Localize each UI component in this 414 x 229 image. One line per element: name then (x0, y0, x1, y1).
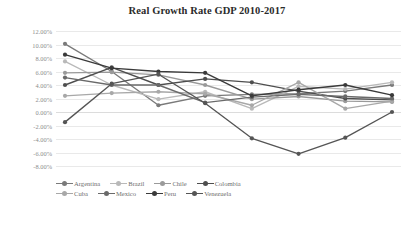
data-point (110, 82, 114, 86)
y-axis-tick-label: -6.00% (33, 149, 52, 156)
data-point (156, 83, 160, 87)
data-point (250, 136, 254, 140)
data-point (390, 80, 394, 84)
data-point (203, 71, 207, 75)
data-point (343, 107, 347, 111)
data-point (63, 94, 67, 98)
legend-marker-icon (56, 180, 73, 187)
data-point (156, 103, 160, 107)
legend-label: Colombia (215, 180, 241, 187)
legend-marker-icon (146, 190, 163, 197)
data-point (63, 71, 67, 75)
data-point (343, 83, 347, 87)
data-point (296, 80, 300, 84)
legend-marker-icon (110, 180, 127, 187)
chart-container: Real Growth Rate GDP 2010-2017 12.00%10.… (0, 0, 414, 229)
legend-marker-icon (197, 180, 214, 187)
legend-row: CubaMexicoPeruVenezuela (56, 190, 356, 197)
chart-legend: ArgentinaBrazilChileColombiaCubaMexicoPe… (56, 180, 356, 197)
legend-label: Brazil (128, 180, 144, 187)
y-axis-tick-label: 8.00% (35, 55, 52, 62)
data-point (63, 42, 67, 46)
legend-label: Cuba (74, 190, 88, 197)
data-point (343, 87, 347, 91)
data-point (63, 59, 67, 63)
data-point (390, 93, 394, 97)
data-point (296, 152, 300, 156)
data-point (390, 110, 394, 114)
data-point (110, 66, 114, 70)
legend-marker-icon (56, 190, 73, 197)
legend-marker-icon (98, 190, 115, 197)
y-axis-tick-label: 10.00% (32, 41, 52, 48)
data-point (203, 83, 207, 87)
legend-label: Argentina (74, 180, 100, 187)
y-axis-tick-label: -2.00% (33, 122, 52, 129)
data-point (156, 72, 160, 76)
plot-area (56, 31, 401, 166)
legend-label: Chile (172, 180, 186, 187)
y-axis-tick-label: 4.00% (35, 82, 52, 89)
data-point (203, 77, 207, 81)
data-point (250, 94, 254, 98)
y-axis-tick-label: 12.00% (32, 28, 52, 35)
data-point (296, 92, 300, 96)
legend-label: Venezuela (204, 190, 231, 197)
data-point (156, 90, 160, 94)
series-line (65, 55, 392, 96)
legend-item-mexico[interactable]: Mexico (98, 190, 136, 197)
y-axis-tick-label: 2.00% (35, 95, 52, 102)
legend-row: ArgentinaBrazilChileColombia (56, 180, 356, 187)
gridline (56, 166, 401, 167)
legend-marker-icon (154, 180, 171, 187)
data-point (343, 136, 347, 140)
data-point (63, 75, 67, 79)
legend-item-peru[interactable]: Peru (146, 190, 176, 197)
legend-item-cuba[interactable]: Cuba (56, 190, 88, 197)
legend-marker-icon (186, 190, 203, 197)
data-point (250, 103, 254, 107)
data-point (63, 83, 67, 87)
legend-label: Peru (164, 190, 176, 197)
data-point (250, 80, 254, 84)
data-point (63, 120, 67, 124)
series-line (65, 72, 392, 102)
series-lines (56, 31, 401, 166)
data-point (63, 53, 67, 57)
legend-label: Mexico (116, 190, 136, 197)
data-point (203, 92, 207, 96)
data-point (203, 101, 207, 105)
data-point (343, 94, 347, 98)
y-axis-tick-label: 6.00% (35, 68, 52, 75)
legend-item-colombia[interactable]: Colombia (197, 180, 241, 187)
legend-item-brazil[interactable]: Brazil (110, 180, 144, 187)
data-point (296, 88, 300, 92)
y-axis-tick-label: -8.00% (33, 163, 52, 170)
data-point (110, 70, 114, 74)
chart-title: Real Growth Rate GDP 2010-2017 (0, 5, 414, 16)
y-axis-tick-label: 0.00% (35, 109, 52, 116)
legend-item-chile[interactable]: Chile (154, 180, 186, 187)
legend-item-venezuela[interactable]: Venezuela (186, 190, 231, 197)
data-point (110, 91, 114, 95)
y-axis-tick-label: -4.00% (33, 136, 52, 143)
data-point (156, 97, 160, 101)
legend-item-argentina[interactable]: Argentina (56, 180, 100, 187)
